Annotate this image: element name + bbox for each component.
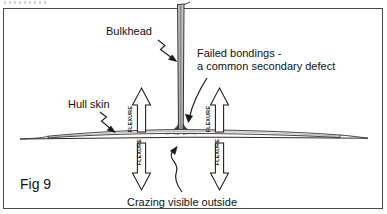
leader-bulkhead <box>158 40 177 62</box>
flexure-label-down-left: FLEXURE <box>136 139 142 166</box>
flexure-arrow-down-right: FLEXURE <box>211 139 229 190</box>
figure-page: FLEXURE FLEXURE FLEXURE FLEXURE <box>0 0 387 214</box>
flexure-label-up-right: FLEXURE <box>205 106 211 133</box>
label-failed-bondings: Failed bondings - a common secondary def… <box>197 47 335 73</box>
leader-failed-bonding <box>185 78 207 122</box>
label-hull-skin: Hull skin <box>68 98 110 111</box>
leader-hull-skin <box>100 112 115 133</box>
leader-crazing <box>170 146 182 192</box>
flexure-arrow-up-right: FLEXURE <box>205 88 228 132</box>
label-failed-bondings-line2: a common secondary defect <box>197 60 335 73</box>
hull-skin-laminate <box>20 130 368 139</box>
label-bulkhead: Bulkhead <box>106 25 152 38</box>
flexure-arrow-down-left: FLEXURE <box>133 139 151 190</box>
figure-caption: Fig 9 <box>20 176 51 193</box>
flexure-label-down-right: FLEXURE <box>214 139 220 166</box>
diagram-canvas: FLEXURE FLEXURE FLEXURE FLEXURE <box>0 0 387 214</box>
label-failed-bondings-line1: Failed bondings - <box>197 47 335 60</box>
label-crazing-visible-outside: Crazing visible outside <box>127 196 237 209</box>
bulkhead-panel <box>177 2 190 132</box>
flexure-arrow-up-left: FLEXURE <box>127 88 150 132</box>
flexure-label-up-left: FLEXURE <box>127 106 133 133</box>
